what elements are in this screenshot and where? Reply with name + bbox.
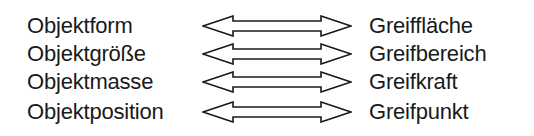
object-property-label: Objektform — [27, 12, 133, 40]
double-arrow-icon — [202, 71, 352, 93]
mapping-row: Objektmasse Greifkraft — [0, 68, 534, 96]
grip-property-label: Greifkraft — [369, 68, 457, 96]
object-property-label: Objektmasse — [27, 68, 153, 96]
double-arrow-icon — [202, 101, 352, 123]
grip-property-label: Greiffläche — [369, 12, 473, 40]
object-property-label: Objektgröße — [27, 40, 146, 68]
grip-property-label: Greifpunkt — [369, 98, 469, 126]
object-property-label: Objektposition — [27, 98, 164, 126]
mapping-row: Objektgröße Greifbereich — [0, 40, 534, 68]
mapping-row: Objektform Greiffläche — [0, 12, 534, 40]
double-arrow-icon — [202, 15, 352, 37]
grip-property-label: Greifbereich — [369, 40, 486, 68]
double-arrow-icon — [202, 43, 352, 65]
mapping-row: Objektposition Greifpunkt — [0, 98, 534, 126]
